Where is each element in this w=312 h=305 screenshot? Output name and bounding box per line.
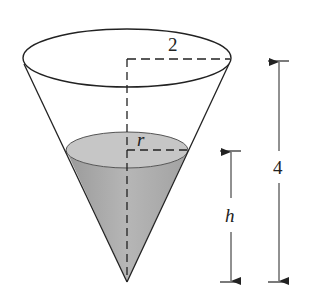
label-total-height: 4 (273, 157, 283, 178)
cone-tank-diagram: 2 r h 4 (0, 0, 312, 305)
label-water-height: h (225, 205, 235, 226)
label-top-radius: 2 (168, 34, 178, 55)
label-water-radius: r (137, 129, 145, 150)
